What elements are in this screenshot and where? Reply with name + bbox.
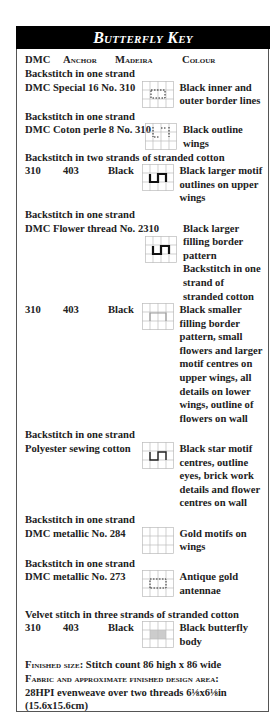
colour-description: Black larger filling border pattern Back… (183, 222, 265, 304)
key-entry: 310 403 Black Black smaller filling bord… (25, 303, 265, 425)
thread-name: DMC metallic No. 284 (25, 527, 142, 554)
dmc-code: 310 (25, 164, 41, 178)
bold-step-icon (145, 236, 177, 263)
bold-step-icon (142, 164, 174, 191)
colour-description: Antique gold antennae (180, 570, 265, 597)
stitch-type: Backstitch in one strand (25, 67, 265, 81)
key-entry: Backstitch in one strand DMC Special 16 … (25, 67, 265, 108)
stitch-type: Velvet stitch in three strands of strand… (25, 608, 265, 622)
key-entry: Backstitch in one strand Polyester sewin… (25, 428, 265, 510)
thread-codes: 310 403 Black (25, 621, 142, 635)
colour-description: Black larger motif outlines on upper win… (180, 164, 265, 205)
thread-name: DMC Special 16 No. 310 (25, 81, 142, 108)
anchor-code: 403 (63, 303, 79, 317)
fabric-label: Fabric and approximate finished design a… (25, 672, 265, 686)
shaded-cells-icon (142, 621, 174, 648)
footer-info: Finished size: Stitch count 86 high x 86… (25, 658, 265, 712)
thin-square-icon (142, 303, 174, 330)
key-entry: Velvet stitch in three strands of strand… (25, 608, 265, 649)
anchor-code: 403 (63, 621, 79, 635)
column-headers: DMC Anchor Madeira Colour (25, 53, 265, 67)
thread-codes: 310 403 Black (25, 164, 142, 178)
dotted-square-icon (142, 570, 174, 597)
stitch-type: Backstitch in one strand (25, 208, 265, 222)
key-content: DMC Anchor Madeira Colour Backstitch in … (25, 53, 265, 713)
stitch-type: Backstitch in one strand (25, 557, 265, 571)
stitch-type: Backstitch in one strand (25, 428, 265, 442)
finished-size-label: Finished size: (25, 659, 83, 670)
colour-description: Black inner and outer border lines (180, 81, 265, 108)
key-entry: Backstitch in one strand DMC metallic No… (25, 513, 265, 554)
stitch-type: Backstitch in one strand (25, 110, 265, 124)
empty-grid-icon (142, 527, 174, 554)
key-entry: Backstitch in one strand DMC Coton perle… (25, 110, 265, 151)
fabric-value: 28HPI evenweave over two threads 6⅛x6⅛in… (25, 686, 265, 713)
colour-description: Black outline wings (183, 123, 265, 150)
column-madeira: Madeira (115, 53, 153, 67)
stitch-type: Backstitch in two strands of stranded co… (25, 151, 265, 165)
dotted-square-icon (142, 81, 174, 108)
column-dmc: DMC (25, 53, 50, 67)
finished-size: Finished size: Stitch count 86 high x 86… (25, 658, 265, 672)
column-anchor: Anchor (63, 53, 97, 67)
step-icon (142, 442, 174, 469)
dmc-code: 310 (25, 303, 41, 317)
thread-name: DMC metallic No. 273 (25, 570, 142, 597)
colour-description: Black star motif centres, outline eyes, … (180, 442, 265, 510)
key-entry: Backstitch in two strands of stranded co… (25, 151, 265, 205)
colour-description: Gold motifs on wings (180, 527, 265, 554)
dotted-lines-icon (145, 123, 177, 150)
finished-size-value: Stitch count 86 high x 86 wide (86, 659, 221, 670)
colour-description: Black butterfly body (180, 621, 265, 648)
colour-description: Black smaller filling border pattern, sm… (180, 303, 265, 425)
thread-name: Polyester sewing cotton (25, 442, 142, 510)
dmc-code: 310 (25, 621, 41, 635)
key-title: Butterfly Key (16, 26, 270, 49)
thread-name: DMC Coton perle 8 No. 310 (25, 123, 145, 150)
madeira-code: Black (108, 621, 134, 635)
key-entry: Backstitch in one strand DMC Flower thre… (25, 208, 265, 303)
key-entry: Backstitch in one strand DMC metallic No… (25, 557, 265, 598)
madeira-code: Black (108, 303, 134, 317)
anchor-code: 403 (63, 164, 79, 178)
madeira-code: Black (108, 164, 134, 178)
column-colour: Colour (182, 53, 215, 67)
stitch-type: Backstitch in one strand (25, 513, 265, 527)
thread-name: DMC Flower thread No. 2310 (25, 222, 145, 304)
thread-codes: 310 403 Black (25, 303, 142, 317)
